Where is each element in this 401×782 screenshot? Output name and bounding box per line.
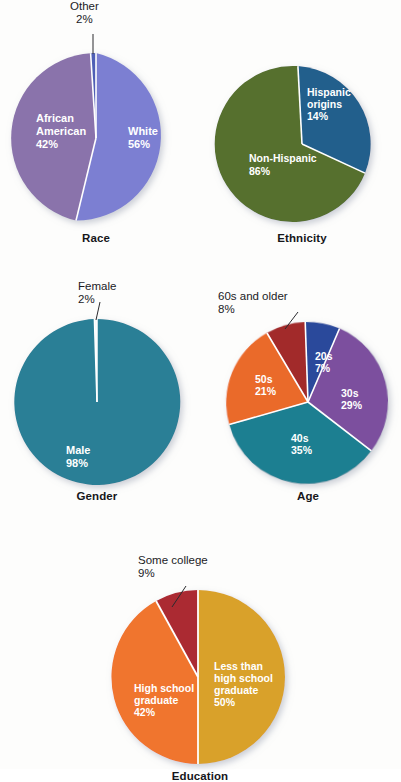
education-label-hs-2: graduate [134, 694, 179, 706]
ethnicity-label-nonhispanic: Non-Hispanic [249, 152, 317, 164]
gender-title: Gender [14, 490, 180, 502]
education-label-less-3: graduate [214, 684, 259, 696]
age-label-40s: 40s [291, 432, 309, 444]
chart-education: Less than high school graduate 50% High … [110, 588, 290, 778]
ethnicity-label-hispanic-2: origins [307, 98, 342, 110]
age-pie: 20s 7% 30s 29% 40s 35% 50s 21% [228, 320, 388, 484]
race-label-white: White [128, 125, 158, 137]
ethnicity-label-hispanic-1: Hispanic [307, 86, 351, 98]
education-label-hs-1: High school [134, 682, 194, 694]
race-title: Race [12, 232, 180, 244]
race-pie-svg: White 56% African American 42% [12, 52, 180, 224]
race-label-aa-2: American [36, 125, 86, 137]
race-pie: White 56% African American 42% [12, 52, 180, 224]
education-title: Education [110, 770, 290, 782]
education-pct-hs: 42% [134, 706, 156, 718]
age-pie-svg: 20s 7% 30s 29% 40s 35% 50s 21% [228, 320, 388, 484]
gender-pie: Male 98% [14, 318, 180, 486]
age-60s-pct: 8% [218, 303, 288, 316]
race-other-pct: 2% [70, 13, 99, 26]
age-callout-60s: 60s and older 8% [218, 290, 288, 316]
gender-callout-female: Female 2% [78, 280, 116, 306]
gender-female-label: Female [78, 280, 116, 292]
chart-ethnicity: Hispanic origins 14% Non-Hispanic 86% Et… [224, 64, 380, 232]
ethnicity-pct-hispanic: 14% [307, 110, 329, 122]
gender-female-pct: 2% [78, 293, 116, 306]
education-label-less-2: high school [214, 672, 273, 684]
age-pct-50s: 21% [255, 385, 277, 397]
age-label-50s: 50s [255, 373, 273, 385]
race-pct-aa: 42% [36, 138, 58, 150]
ethnicity-pie-svg: Hispanic origins 14% Non-Hispanic 86% [224, 64, 380, 224]
race-pct-white: 56% [128, 138, 150, 150]
education-some-college-label: Some college [138, 554, 208, 566]
age-pct-20s: 7% [315, 362, 331, 374]
ethnicity-title: Ethnicity [224, 232, 380, 244]
education-pie: Less than high school graduate 50% High … [110, 588, 290, 766]
race-other-label: Other [70, 0, 99, 12]
age-label-20s: 20s [315, 350, 333, 362]
ethnicity-pie: Hispanic origins 14% Non-Hispanic 86% [224, 64, 380, 224]
chart-gender: Male 98% Female 2% Gender [14, 318, 180, 494]
age-pct-40s: 35% [291, 444, 313, 456]
age-pct-30s: 29% [341, 399, 363, 411]
education-label-less-1: Less than [214, 660, 263, 672]
ethnicity-pct-nonhispanic: 86% [249, 165, 271, 177]
chart-age: 20s 7% 30s 29% 40s 35% 50s 21% 60s and o… [228, 320, 388, 492]
education-pie-svg: Less than high school graduate 50% High … [110, 588, 290, 766]
gender-pct-male: 98% [66, 457, 88, 469]
education-some-college-pct: 9% [138, 567, 208, 580]
race-label-aa-1: African [36, 112, 74, 124]
education-callout-some-college: Some college 9% [138, 554, 208, 580]
race-callout-other: Other 2% [70, 0, 99, 26]
age-title: Age [228, 490, 388, 502]
gender-label-male: Male [66, 444, 90, 456]
gender-pie-svg: Male 98% [14, 318, 180, 486]
education-pct-less: 50% [214, 696, 236, 708]
age-label-30s: 30s [341, 387, 359, 399]
chart-race: White 56% African American 42% Other 2% … [12, 52, 180, 232]
age-60s-label: 60s and older [218, 290, 288, 302]
